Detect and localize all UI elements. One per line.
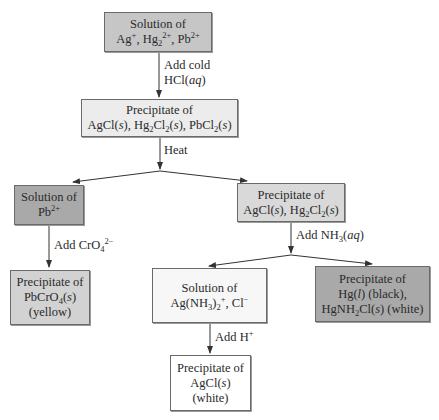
node-agcl-hg2cl2-line2: AgCl(s), Hg2Cl2(s) (243, 203, 338, 218)
node-precip-all-line2: AgCl(s), Hg2Cl2(s), PbCl2(s) (87, 118, 231, 133)
node-agcl-white-line1: Precipitate of (177, 361, 244, 376)
node-ag-nh3-line1: Solution of (182, 281, 238, 296)
node-pbcro4-precipitate: Precipitate of PbCrO4(s) (yellow) (10, 270, 90, 325)
node-agcl-hg2cl2-line1: Precipitate of (258, 188, 325, 203)
arrow-nh3-right (291, 255, 372, 264)
label-heat: Heat (164, 143, 188, 158)
node-agcl-hg2cl2-precipitate: Precipitate of AgCl(s), Hg2Cl2(s) (237, 183, 345, 222)
node-agcl-white-precipitate: Precipitate of AgCl(s) (white) (170, 355, 251, 411)
arrow-nh3-left (209, 255, 291, 266)
node-hg-line1: Precipitate of (339, 272, 406, 287)
node-pb-solution: Solution of Pb2+ (14, 185, 84, 225)
node-ag-nh3-line2: Ag(NH3)2+, Cl− (171, 296, 249, 311)
node-agcl-white-line3: (white) (192, 391, 228, 406)
node-ag-nh3-solution: Solution of Ag(NH3)2+, Cl− (152, 268, 267, 323)
label-add-nh3: Add NH3(aq) (296, 228, 364, 243)
node-pb-line1: Solution of (21, 190, 77, 205)
node-precipitate-all: Precipitate of AgCl(s), Hg2Cl2(s), PbCl2… (81, 99, 238, 137)
node-hg-precipitate: Precipitate of Hg(l) (black), HgNH2Cl(s)… (315, 266, 430, 322)
node-start-line2: Ag+, Hg22+, Pb2+ (116, 32, 199, 47)
node-pb-line2: Pb2+ (38, 205, 60, 220)
node-start-solution: Solution of Ag+, Hg22+, Pb2+ (104, 12, 212, 52)
label-add-h-plus: Add H+ (215, 330, 253, 345)
node-pbcro4-line1: Precipitate of (17, 275, 84, 290)
node-agcl-white-line2: AgCl(s) (190, 376, 230, 391)
node-pbcro4-line3: (yellow) (29, 305, 71, 320)
label-add-cro4: Add CrO42− (54, 238, 113, 253)
arrow-heat-right (160, 171, 247, 181)
label-add-cold-hcl: Add cold HCl(aq) (164, 58, 210, 88)
node-precip-all-line1: Precipitate of (126, 103, 193, 118)
node-hg-line3: HgNH2Cl(s) (white) (322, 302, 424, 317)
node-pbcro4-line2: PbCrO4(s) (24, 290, 76, 305)
node-hg-line2: Hg(l) (black), (338, 287, 407, 302)
arrow-heat-left (73, 171, 160, 182)
node-start-line1: Solution of (130, 17, 186, 32)
